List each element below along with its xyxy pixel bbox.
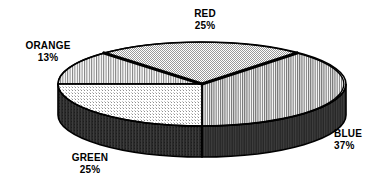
slice-label-green: GREEN 25% bbox=[44, 152, 136, 176]
slice-label-orange-percent: 13% bbox=[2, 52, 94, 64]
slice-label-red-percent: 25% bbox=[161, 20, 249, 32]
slice-label-blue-percent: 37% bbox=[334, 140, 390, 152]
slice-label-red: RED 25% bbox=[161, 8, 249, 32]
slice-label-orange: ORANGE 13% bbox=[2, 40, 94, 64]
slice-label-blue-name: BLUE bbox=[334, 128, 390, 140]
slice-label-orange-name: ORANGE bbox=[2, 40, 94, 52]
slice-label-red-name: RED bbox=[161, 8, 249, 20]
slice-label-blue: BLUE 37% bbox=[334, 128, 390, 152]
slice-label-green-percent: 25% bbox=[44, 164, 136, 176]
slice-label-green-name: GREEN bbox=[44, 152, 136, 164]
pie-top-face bbox=[58, 42, 346, 126]
pie-chart: RED 25% ORANGE 13% BLUE 37% GREEN 25% bbox=[0, 0, 392, 186]
